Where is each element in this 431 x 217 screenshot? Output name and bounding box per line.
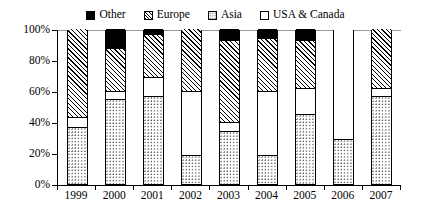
- bar-segment: [144, 77, 163, 96]
- x-axis-tick-label: 2001: [133, 190, 171, 202]
- legend-swatch-icon: [144, 11, 153, 20]
- x-axis-tick-label: 2006: [324, 190, 362, 202]
- bar-segment: [220, 29, 239, 40]
- x-axis-tick-mark: [171, 186, 172, 190]
- bar-segment: [182, 155, 201, 184]
- stacked-bar[interactable]: [371, 30, 392, 185]
- bar-segment: [296, 40, 315, 88]
- bar-segment: [182, 29, 201, 91]
- y-axis-tick-label: 0%: [0, 179, 50, 191]
- stacked-bar[interactable]: [105, 30, 126, 185]
- bar-segment: [220, 131, 239, 184]
- bar-segment: [334, 29, 353, 139]
- legend-entry-asia[interactable]: Asia: [208, 9, 242, 21]
- y-axis-tick-label: 20%: [0, 148, 50, 160]
- x-axis-tick-mark: [95, 186, 96, 190]
- bar-segment: [372, 88, 391, 96]
- legend-label: Europe: [157, 9, 190, 21]
- chart-legend: OtherEuropeAsiaUSA & Canada: [0, 6, 431, 24]
- x-axis-tick-label: 1999: [57, 190, 95, 202]
- x-axis-tick-mark: [286, 186, 287, 190]
- bar-segment: [258, 29, 277, 38]
- stacked-bar[interactable]: [181, 30, 202, 185]
- x-axis-tick-label: 2007: [362, 190, 400, 202]
- legend-swatch-icon: [208, 11, 217, 20]
- x-axis-tick-label: 2002: [171, 190, 209, 202]
- bar-segment: [372, 96, 391, 184]
- bar-segment: [296, 88, 315, 114]
- legend-label: Asia: [221, 9, 242, 21]
- bar-slot: [363, 30, 401, 185]
- bar-segment: [68, 117, 87, 126]
- bar-slot: [134, 30, 172, 185]
- bar-slot: [58, 30, 96, 185]
- bar-segment: [296, 29, 315, 40]
- bar-segment: [220, 40, 239, 122]
- bar-segment: [334, 139, 353, 184]
- bar-segment: [296, 114, 315, 184]
- bar-segment: [106, 48, 125, 91]
- stacked-bar[interactable]: [219, 30, 240, 185]
- bar-segment: [372, 29, 391, 88]
- stacked-bar[interactable]: [295, 30, 316, 185]
- bar-segment: [258, 91, 277, 155]
- y-axis-tick-label: 100%: [0, 24, 50, 36]
- legend-swatch-icon: [86, 11, 95, 20]
- bar-segment: [106, 99, 125, 184]
- bar-segment: [258, 155, 277, 184]
- stacked-bar-chart: OtherEuropeAsiaUSA & Canada 0%20%40%60%8…: [0, 0, 431, 217]
- legend-entry-europe[interactable]: Europe: [144, 9, 190, 21]
- bar-segment: [182, 91, 201, 155]
- x-axis-tick-mark: [324, 186, 325, 190]
- y-axis: 0%20%40%60%80%100%: [0, 0, 50, 217]
- bar-segment: [106, 29, 125, 48]
- stacked-bar[interactable]: [67, 30, 88, 185]
- legend-entry-usa-canada[interactable]: USA & Canada: [260, 9, 345, 21]
- legend-swatch-icon: [260, 11, 269, 20]
- stacked-bar[interactable]: [257, 30, 278, 185]
- bar-slot: [325, 30, 363, 185]
- bar-segment: [106, 91, 125, 99]
- x-axis-tick-mark: [57, 186, 58, 190]
- bar-segment: [68, 29, 87, 117]
- bars-container: [58, 30, 401, 185]
- legend-label: Other: [99, 9, 125, 21]
- bar-slot: [249, 30, 287, 185]
- bar-slot: [287, 30, 325, 185]
- x-axis-tick-mark: [248, 186, 249, 190]
- bar-segment: [144, 34, 163, 77]
- bar-segment: [144, 96, 163, 184]
- x-axis-tick-label: 2000: [95, 190, 133, 202]
- bar-segment: [220, 122, 239, 131]
- x-axis: 199920002001200220032004200520062007: [57, 190, 400, 210]
- x-axis-tick-mark: [209, 186, 210, 190]
- legend-label: USA & Canada: [273, 9, 345, 21]
- y-axis-tick-label: 80%: [0, 55, 50, 67]
- x-axis-tick-mark: [362, 186, 363, 190]
- legend-entry-other[interactable]: Other: [86, 9, 125, 21]
- bar-slot: [210, 30, 248, 185]
- stacked-bar[interactable]: [333, 30, 354, 185]
- x-axis-tick-mark: [133, 186, 134, 190]
- y-axis-tick-label: 60%: [0, 86, 50, 98]
- y-axis-tick-label: 40%: [0, 117, 50, 129]
- bar-slot: [172, 30, 210, 185]
- bar-slot: [96, 30, 134, 185]
- bar-segment: [258, 38, 277, 91]
- x-axis-tick-label: 2005: [286, 190, 324, 202]
- bar-segment: [68, 127, 87, 184]
- x-axis-tick-label: 2004: [248, 190, 286, 202]
- x-axis-tick-label: 2003: [209, 190, 247, 202]
- stacked-bar[interactable]: [143, 30, 164, 185]
- x-axis-tick-mark: [400, 186, 401, 190]
- plot-area: [57, 30, 401, 186]
